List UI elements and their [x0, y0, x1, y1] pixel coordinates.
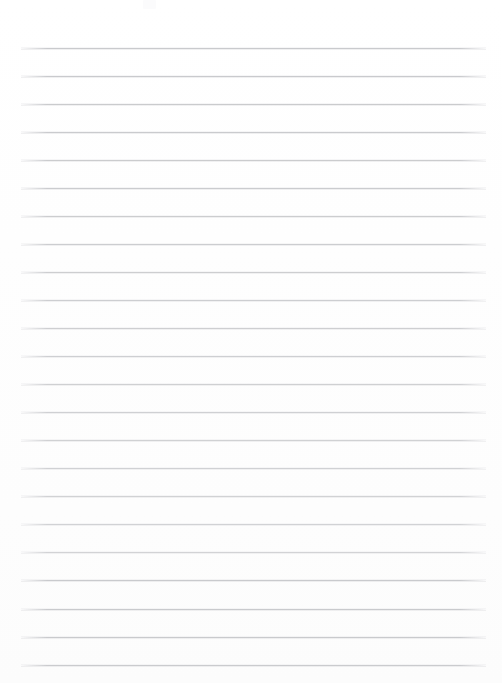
ruled-paper-page — [0, 0, 502, 683]
writing-area[interactable] — [0, 0, 502, 683]
